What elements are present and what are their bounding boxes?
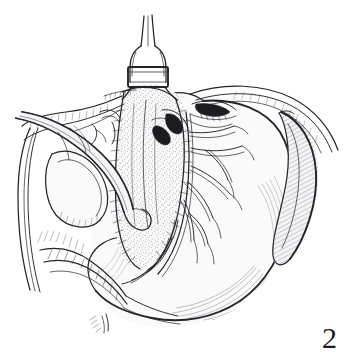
figure-number: 2 xyxy=(322,323,337,353)
anatomical-illustration xyxy=(0,0,349,363)
figure-container: 2 xyxy=(0,0,349,363)
